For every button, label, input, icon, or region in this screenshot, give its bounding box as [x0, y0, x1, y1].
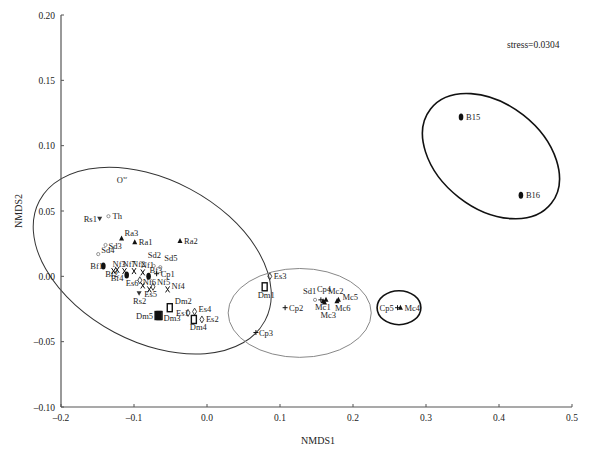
point-label: Nf5 [157, 277, 170, 287]
data-point-cp3: Cp3 [253, 328, 273, 338]
data-point-nf6: Nf6 [141, 277, 156, 288]
point-label: Es6 [126, 278, 139, 288]
x-tick-label: 0.0 [201, 413, 213, 423]
point-label: Dm5 [136, 311, 153, 321]
data-point-cp2: Cp2 [283, 303, 304, 313]
data-point-dm1: Dm1 [258, 283, 275, 300]
star-marker-icon [97, 253, 100, 256]
data-point-cp5: Cp5 [380, 303, 401, 313]
y-tick-label: 0.15 [38, 76, 55, 86]
x-tick-label: 0.1 [274, 413, 286, 423]
data-point-es6: Es6 [126, 277, 142, 289]
y-tick-label: –0.05 [33, 337, 56, 347]
data-point-ra3: Ra3 [119, 228, 138, 240]
cluster-b15-b16-ellipse [398, 68, 583, 245]
point-label: Sd2 [148, 250, 161, 260]
point-label: B15 [466, 112, 480, 122]
ellipse-marker-icon [459, 113, 464, 120]
point-label: Es1 [176, 308, 189, 318]
point-label: Rs1 [84, 214, 97, 224]
point-label: Bf1 [90, 261, 103, 271]
point-label: Nf4 [172, 281, 186, 291]
point-label: Sd1 [303, 286, 316, 296]
data-point-mc4: Mc4 [398, 303, 421, 313]
point-label: Sd4 [101, 245, 115, 255]
point-label: Th [112, 211, 122, 221]
data-point-es1: Es1 [176, 308, 190, 318]
triangle-marker-icon [177, 238, 182, 243]
rect-marker-icon [167, 304, 172, 312]
rect-marker-icon [155, 312, 161, 320]
data-point-o: Oxr [117, 175, 128, 185]
point-label: Mc2 [328, 286, 344, 296]
diamond-marker-icon [193, 308, 197, 315]
data-point-es4: Es4 [193, 304, 213, 316]
x-tick-label: –0.1 [125, 413, 143, 423]
point-label: Ra2 [184, 236, 198, 246]
cluster-ellipses [1, 68, 583, 392]
point-label: Sd5 [164, 253, 177, 263]
y-axis-title: NMDS2 [13, 194, 24, 228]
y-tick-label: –0.10 [33, 403, 56, 413]
y-tick-label: 0.20 [38, 11, 55, 21]
y-tick-label: 0.05 [38, 207, 55, 217]
triangle-down-marker-icon [137, 291, 142, 296]
data-point-th: Th [107, 211, 123, 221]
data-point-b15: B15 [459, 112, 480, 122]
point-label: Es3 [274, 271, 287, 281]
point-label: Mc4 [404, 303, 420, 313]
point-label: Dm2 [175, 296, 192, 306]
point-label: Cp3 [259, 328, 273, 338]
data-point-sd1: Sd1 [303, 286, 317, 302]
nmds-chart: –0.2–0.10.00.10.20.30.40.5–0.10–0.050.00… [0, 0, 592, 452]
point-label: Ra1 [139, 237, 153, 247]
data-point-es3: Es3 [268, 271, 287, 281]
y-tick-label: 0.00 [38, 272, 55, 282]
point-label: Dm1 [258, 290, 275, 300]
triangle-marker-icon [132, 239, 137, 244]
x-tick-label: 0.2 [347, 413, 359, 423]
data-points: OxrRs1ThRa3Ra1Ra2Sd3Sd4Bf1Bf2Bf4Bf3Nf3Nf… [84, 112, 540, 338]
data-point-bf1: Bf1 [90, 261, 105, 271]
point-label: Oxr [117, 175, 128, 185]
triangle-down-marker-icon [97, 217, 102, 222]
x-tick-label: 0.3 [420, 413, 432, 423]
point-label: Mc3 [321, 310, 337, 320]
stress-annotation: stress=0.0304 [507, 40, 560, 50]
y-tick-label: 0.10 [38, 141, 55, 151]
star-marker-icon [313, 298, 316, 301]
data-point-ra1: Ra1 [132, 237, 152, 247]
data-point-sd5: Sd5 [159, 253, 178, 269]
x-tick-label: –0.2 [52, 413, 70, 423]
data-point-b16: B16 [519, 190, 540, 200]
point-label: Bf4 [111, 273, 125, 283]
point-label: Mc6 [335, 303, 351, 313]
point-label: Cp5 [380, 303, 394, 313]
x-axis-title: NMDS1 [301, 435, 335, 446]
point-label: Es4 [199, 304, 213, 314]
ellipse-marker-icon [519, 192, 524, 199]
point-label: Cp2 [289, 303, 303, 313]
point-label: Ra3 [125, 228, 139, 238]
data-point-rs1: Rs1 [84, 214, 103, 224]
point-label: Rs2 [133, 296, 146, 306]
point-label: Mc5 [342, 292, 358, 302]
x-tick-label: 0.4 [493, 413, 505, 423]
star-marker-icon [107, 215, 110, 218]
triangle-marker-icon [119, 235, 124, 240]
data-point-sd4: Sd4 [97, 245, 116, 256]
x-tick-label: 0.5 [566, 413, 578, 423]
point-label: B16 [526, 190, 540, 200]
data-point-ra2: Ra2 [177, 236, 197, 246]
point-label: Es2 [206, 314, 219, 324]
